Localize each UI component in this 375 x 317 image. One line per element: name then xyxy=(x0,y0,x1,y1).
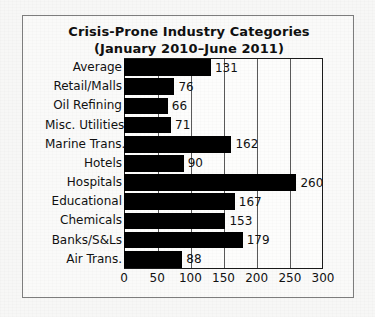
bar xyxy=(124,59,211,76)
x-tick-label-0: 0 xyxy=(120,271,128,285)
bar-value-label: 76 xyxy=(174,80,193,94)
bar-value-label: 260 xyxy=(296,176,323,190)
category-label: Oil Refining xyxy=(45,96,122,115)
x-tick-label-250: 250 xyxy=(278,271,301,285)
bar-row: 260 xyxy=(124,173,323,192)
bar-row: 131 xyxy=(124,58,323,77)
bar-row: 179 xyxy=(124,231,323,250)
bar xyxy=(124,78,174,95)
bar-row: 90 xyxy=(124,154,323,173)
bar-value-label: 71 xyxy=(171,118,190,132)
bar xyxy=(124,251,182,268)
x-tick-label-50: 50 xyxy=(150,271,165,285)
category-label: Average xyxy=(45,58,122,77)
chart-title: Crisis-Prone Industry Categories xyxy=(23,24,355,40)
bar-row: 66 xyxy=(124,96,323,115)
category-label: Misc. Utilities xyxy=(45,116,122,135)
category-label: Educational xyxy=(45,192,122,211)
bar-value-label: 90 xyxy=(184,156,203,170)
bar xyxy=(124,136,231,153)
bar-value-label: 88 xyxy=(182,252,201,266)
bar-row: 88 xyxy=(124,250,323,269)
x-tick-label-200: 200 xyxy=(245,271,268,285)
bar-value-label: 162 xyxy=(231,137,258,151)
bar-value-label: 153 xyxy=(225,214,252,228)
bar xyxy=(124,193,235,210)
bar xyxy=(124,174,296,191)
chart-page: Crisis-Prone Industry Categories (Januar… xyxy=(0,0,375,317)
x-tick-label-100: 100 xyxy=(179,271,202,285)
category-label: Hospitals xyxy=(45,173,122,192)
bar-value-label: 179 xyxy=(243,233,270,247)
value-axis-ticks: 050100150200250300 xyxy=(124,271,323,289)
bar-row: 167 xyxy=(124,192,323,211)
bar xyxy=(124,117,171,134)
category-label: Marine Trans. xyxy=(45,135,122,154)
bar xyxy=(124,155,184,172)
category-axis-labels: AverageRetail/MallsOil RefiningMisc. Uti… xyxy=(45,58,122,269)
x-tick-label-150: 150 xyxy=(212,271,235,285)
category-label: Retail/Malls xyxy=(45,77,122,96)
bar xyxy=(124,98,168,115)
bar-row: 153 xyxy=(124,211,323,230)
chart-subtitle: (January 2010–June 2011) xyxy=(23,41,355,57)
category-label: Chemicals xyxy=(45,211,122,230)
x-tick-label-300: 300 xyxy=(312,271,335,285)
bar-row: 76 xyxy=(124,77,323,96)
figure-frame: Crisis-Prone Industry Categories (Januar… xyxy=(22,15,354,298)
bar-value-label: 167 xyxy=(235,195,262,209)
bar xyxy=(124,232,243,249)
bar xyxy=(124,213,225,230)
category-label: Air Trans. xyxy=(45,250,122,269)
bar-row: 71 xyxy=(124,116,323,135)
bar-value-label: 131 xyxy=(211,61,238,75)
bar-row: 162 xyxy=(124,135,323,154)
bars-layer: 1317666711629026016715317988 xyxy=(124,58,323,269)
bar-value-label: 66 xyxy=(168,99,187,113)
category-label: Banks/S&Ls xyxy=(45,231,122,250)
category-label: Hotels xyxy=(45,154,122,173)
